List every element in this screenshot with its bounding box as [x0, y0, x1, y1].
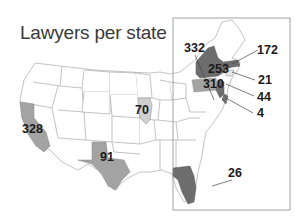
label-california: 328	[22, 123, 43, 136]
label-massachusetts: 172	[257, 44, 278, 57]
label-florida: 26	[228, 167, 242, 180]
label-new-york: 253	[208, 63, 229, 76]
label-illinois: 70	[135, 104, 149, 117]
label-pennsylvania: 332	[184, 42, 205, 55]
label-texas: 91	[100, 151, 114, 164]
us-map	[0, 0, 300, 218]
label-maryland: 4	[257, 107, 264, 120]
label-connecticut: 21	[258, 74, 272, 87]
label-delaware: 44	[257, 91, 271, 104]
label-new-jersey: 310	[203, 78, 224, 91]
